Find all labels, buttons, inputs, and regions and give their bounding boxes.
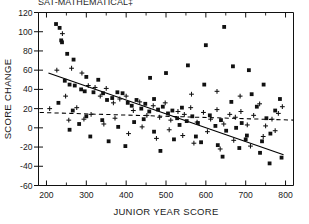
data-point-square <box>268 161 272 165</box>
data-point-plus <box>233 115 238 120</box>
data-point-plus <box>201 110 206 115</box>
data-point-square <box>65 52 69 56</box>
data-point-square <box>115 90 119 94</box>
data-point-square <box>60 40 64 44</box>
data-point-square <box>199 140 203 144</box>
data-point-square <box>57 101 61 105</box>
data-point-square <box>156 108 160 112</box>
axis-frame-left-bottom <box>39 13 294 186</box>
data-point-square <box>190 114 194 118</box>
data-point-square <box>96 78 100 82</box>
data-point-square <box>105 98 109 102</box>
x-tick-label: 700 <box>239 190 254 200</box>
x-tick-label: 300 <box>79 190 94 200</box>
y-tick-label: 60 <box>23 65 33 75</box>
data-point-square <box>77 122 81 126</box>
data-point-plus <box>263 124 268 129</box>
y-axis-label: SCORE CHANGE <box>2 59 13 140</box>
data-point-square <box>186 63 190 67</box>
scatter-plot: -60-40-200204060801001202003004005006007… <box>0 0 309 224</box>
data-point-plus <box>168 118 173 123</box>
data-point-plus <box>227 112 232 117</box>
data-point-plus <box>273 128 278 133</box>
data-point-square <box>142 117 146 121</box>
data-point-square <box>185 119 189 123</box>
data-point-plus <box>63 94 68 99</box>
data-point-plus <box>60 31 65 36</box>
x-tick-label: 600 <box>199 190 214 200</box>
data-point-square <box>240 121 244 125</box>
data-point-square <box>273 109 277 113</box>
data-point-plus <box>101 122 106 127</box>
data-point-square <box>107 139 111 143</box>
x-tick-label: 200 <box>39 190 54 200</box>
data-point-square <box>244 137 248 141</box>
data-point-square <box>100 118 104 122</box>
data-point-square <box>135 98 139 102</box>
data-point-plus <box>221 122 226 127</box>
data-point-square <box>208 113 212 117</box>
data-point-plus <box>238 94 243 99</box>
data-point-plus <box>69 66 74 71</box>
solid-regression <box>48 73 283 155</box>
data-point-square <box>152 97 156 101</box>
data-point-square <box>278 97 282 101</box>
data-point-plus <box>180 133 185 138</box>
data-point-square <box>139 107 143 111</box>
data-point-plus <box>80 71 85 76</box>
data-point-plus <box>74 105 79 110</box>
chart-container: SAT-MATHEMATICAL‡ -60-40-200204060801001… <box>0 0 309 224</box>
data-point-square <box>84 75 88 79</box>
data-point-square <box>73 84 77 88</box>
data-point-square <box>247 68 251 72</box>
data-point-plus <box>140 124 145 129</box>
data-point-square <box>126 101 130 105</box>
data-point-plus <box>104 86 109 91</box>
data-point-square <box>180 106 184 110</box>
data-point-square <box>202 83 206 87</box>
data-point-square <box>221 155 225 159</box>
data-point-plus <box>126 131 131 136</box>
data-point-plus <box>280 104 285 109</box>
data-point-square <box>170 109 174 113</box>
data-point-square <box>148 76 152 80</box>
data-point-square <box>250 92 254 96</box>
x-tick-label: 400 <box>119 190 134 200</box>
data-point-plus <box>189 92 194 97</box>
x-tick-label: 800 <box>278 190 293 200</box>
data-point-square <box>175 116 179 120</box>
data-point-square <box>152 130 156 134</box>
data-point-square <box>164 71 168 75</box>
data-point-plus <box>47 106 52 111</box>
data-point-square <box>84 114 88 118</box>
x-tick-label: 500 <box>159 190 174 200</box>
x-axis-label: JUNIOR YEAR SCORE <box>113 206 218 217</box>
y-tick-label: -40 <box>20 161 33 171</box>
data-point-square <box>54 22 58 26</box>
data-point-square <box>216 143 220 147</box>
data-point-plus <box>218 147 223 152</box>
data-point-square <box>79 87 83 91</box>
data-point-plus <box>239 109 244 114</box>
y-tick-label: 100 <box>18 27 33 37</box>
data-point-square <box>224 129 228 133</box>
data-point-square <box>258 151 262 155</box>
data-point-square <box>63 79 67 83</box>
data-point-square <box>204 43 208 47</box>
data-point-plus <box>245 123 250 128</box>
y-tick-label: 80 <box>23 46 33 56</box>
data-point-square <box>121 91 125 95</box>
data-point-plus <box>176 109 181 114</box>
data-point-square <box>130 104 134 108</box>
data-point-square <box>262 83 266 87</box>
data-point-plus <box>163 100 168 105</box>
data-point-plus <box>154 136 159 141</box>
data-point-square <box>214 124 218 128</box>
data-point-square <box>68 128 72 132</box>
data-point-square <box>260 139 264 143</box>
data-point-square <box>178 123 182 127</box>
data-point-plus <box>111 100 116 105</box>
y-tick-label: 40 <box>23 84 33 94</box>
data-point-plus <box>144 113 149 118</box>
data-point-square <box>280 156 284 160</box>
